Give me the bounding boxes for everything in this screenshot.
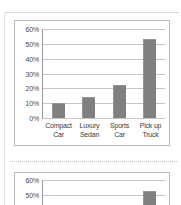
y-axis-tick-label: 50% [26,41,39,48]
x-axis-tick-label-line: Luxury [74,121,105,130]
y-axis-tick-label: 30% [26,71,39,78]
x-axis-tick-label-line: Compact [43,121,74,130]
x-axis-tick-label: Pick upTruck [135,121,166,139]
y-axis-tick-label: 0% [29,115,39,122]
gridline [43,180,165,181]
bar [82,97,95,118]
bar [52,103,65,118]
gridline [43,118,165,119]
bar [113,85,126,118]
x-axis-tick-label: LuxurySedan [74,121,105,139]
x-axis-tick-label-line: Sports [104,121,135,130]
y-axis-primary: 0%10%20%30%40%50%60% [15,21,41,145]
bar-chart-secondary: 50%60% [14,172,170,205]
y-axis-tick-label: 50% [26,192,39,199]
x-axis-tick-label-line: Truck [135,130,166,139]
x-axis-tick-label-line: Sedan [74,130,105,139]
x-axis-tick-label-line: Car [43,130,74,139]
y-axis-secondary: 50%60% [15,173,41,205]
gridline [43,29,165,30]
bar-chart-primary: 0%10%20%30%40%50%60% CompactCarLuxurySed… [14,20,170,146]
page-canvas: 0%10%20%30%40%50%60% CompactCarLuxurySed… [0,0,181,205]
bar [143,191,156,205]
y-axis-tick-label: 60% [26,26,39,33]
y-axis-line [42,29,43,119]
section-divider [10,161,177,162]
y-axis-tick-label: 20% [26,85,39,92]
document-left-rule [4,12,5,205]
bar [143,39,156,118]
x-axis-tick-label: SportsCar [104,121,135,139]
y-axis-line [42,180,43,205]
x-axis-tick-label: CompactCar [43,121,74,139]
x-axis-tick-label-line: Car [104,130,135,139]
x-axis-tick-label-line: Pick up [135,121,166,130]
y-axis-tick-label: 60% [26,177,39,184]
document-top-rule [4,12,179,13]
y-axis-tick-label: 10% [26,100,39,107]
y-axis-tick-label: 40% [26,56,39,63]
